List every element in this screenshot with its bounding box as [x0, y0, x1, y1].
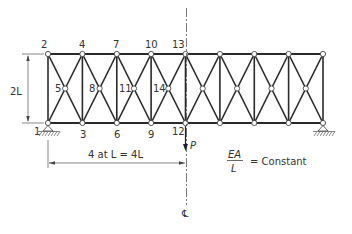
svg-text:13: 13	[172, 39, 185, 50]
svg-text:3: 3	[80, 129, 86, 140]
svg-text:5: 5	[55, 83, 61, 94]
centerline-symbol: ℄	[181, 208, 189, 219]
svg-text:1: 1	[34, 126, 40, 137]
svg-text:8: 8	[89, 83, 95, 94]
svg-text:7: 7	[113, 39, 119, 50]
svg-text:L: L	[231, 163, 237, 174]
left-pin-support-icon	[38, 126, 60, 137]
svg-text:10: 10	[145, 39, 158, 50]
height-dimension	[22, 54, 44, 123]
svg-text:EA: EA	[228, 149, 241, 160]
right-pin-support-icon	[313, 126, 335, 137]
svg-text:12: 12	[172, 126, 185, 137]
svg-text:9: 9	[148, 129, 154, 140]
node-labels-top: 2 4 7 10 13	[41, 39, 185, 50]
svg-text:11: 11	[119, 83, 132, 94]
span-label: 4 at L = 4L	[88, 149, 143, 160]
node-labels-bottom: 1 3 6 9 12	[34, 126, 185, 140]
height-label: 2L	[10, 86, 22, 97]
load-label: P	[190, 140, 197, 151]
svg-text:= Constant: = Constant	[250, 156, 307, 167]
svg-text:4: 4	[79, 39, 85, 50]
truss-figure: ℄ P 2L 4 at L = 4L EA L = Constant 2 4 7…	[0, 0, 352, 234]
node-labels-mid: 5 8 11 14	[55, 83, 166, 94]
svg-text:6: 6	[114, 129, 120, 140]
property-note: EA L = Constant	[227, 149, 307, 174]
svg-text:14: 14	[153, 83, 166, 94]
svg-text:2: 2	[41, 39, 47, 50]
